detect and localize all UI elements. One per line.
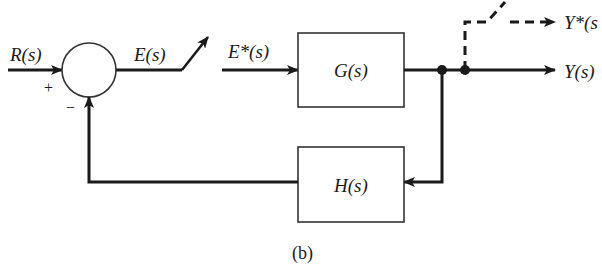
plus-sign: + bbox=[44, 80, 53, 96]
label-input: R(s) bbox=[10, 45, 42, 64]
label-error: E(s) bbox=[134, 45, 166, 64]
label-sampled-output: Y*(s bbox=[564, 13, 598, 32]
block-diagram bbox=[0, 0, 602, 271]
minus-sign: − bbox=[66, 100, 75, 116]
label-sampled-error: E*(s) bbox=[228, 42, 269, 61]
figure-caption: (b) bbox=[292, 244, 313, 262]
summing-junction bbox=[62, 43, 116, 97]
output-sampler-path bbox=[465, 2, 505, 70]
sampler-switch bbox=[182, 37, 208, 70]
feedback-path-right bbox=[404, 70, 442, 182]
label-block-h: H(s) bbox=[334, 176, 368, 195]
label-block-g: G(s) bbox=[334, 61, 368, 80]
feedback-path-left bbox=[89, 97, 298, 182]
label-output: Y(s) bbox=[564, 62, 595, 81]
